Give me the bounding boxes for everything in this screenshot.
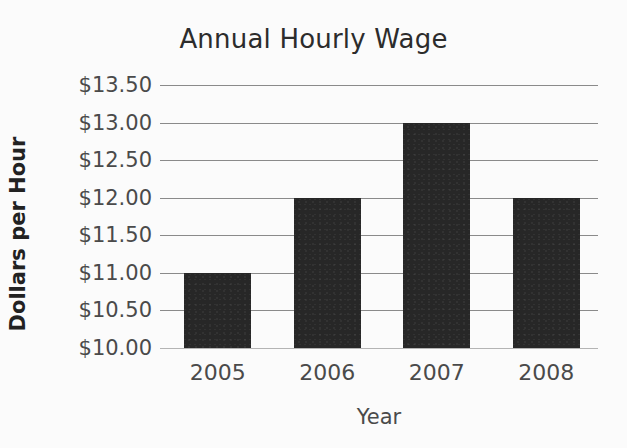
plot-area xyxy=(160,85,598,348)
y-tick-label: $10.50 xyxy=(0,300,152,321)
y-tick-label: $11.00 xyxy=(0,262,152,283)
x-axis-tick-labels: 2005200620072008 xyxy=(160,360,598,392)
x-tick-label: 2008 xyxy=(518,360,574,385)
x-tick-label: 2005 xyxy=(190,360,246,385)
bar-chart-figure: Annual Hourly Wage Dollars per Hour $13.… xyxy=(0,0,627,448)
bar xyxy=(294,198,361,348)
x-tick-label: 2006 xyxy=(299,360,355,385)
y-tick-label: $11.50 xyxy=(0,225,152,246)
y-axis-tick-labels: $13.50$13.00$12.50$12.00$11.50$11.00$10.… xyxy=(0,85,152,348)
bars-group xyxy=(160,85,598,348)
bar xyxy=(184,273,251,348)
bar xyxy=(403,123,470,348)
chart-title: Annual Hourly Wage xyxy=(0,24,627,54)
y-tick-label: $13.50 xyxy=(0,75,152,96)
y-tick-label: $12.50 xyxy=(0,150,152,171)
bar xyxy=(513,198,580,348)
y-tick-label: $12.00 xyxy=(0,187,152,208)
gridline xyxy=(160,348,598,349)
y-tick-label: $10.00 xyxy=(0,338,152,359)
x-axis-title: Year xyxy=(160,405,598,429)
y-tick-label: $13.00 xyxy=(0,112,152,133)
x-tick-label: 2007 xyxy=(409,360,465,385)
